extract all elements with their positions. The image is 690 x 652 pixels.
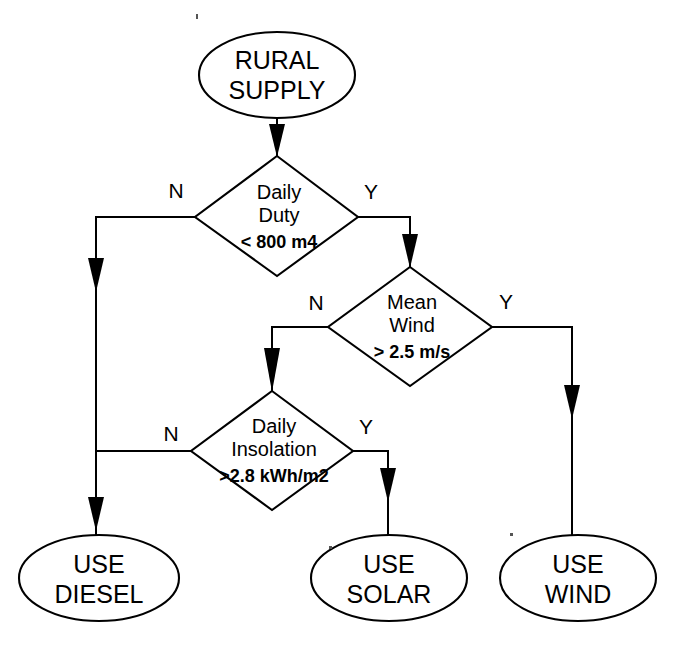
node-label-line1: Daily (252, 415, 296, 437)
scan-speck (510, 533, 513, 536)
arrowhead-icon (264, 348, 280, 392)
edge-wind-no-to-insolation (264, 327, 328, 392)
edge-wind-yes-to-use-wind (492, 327, 580, 545)
node-use-diesel[interactable]: USE DIESEL (19, 535, 179, 621)
node-label-line1: Mean (387, 291, 437, 313)
edge-start-to-duty (269, 117, 285, 157)
node-label-line1: Daily (257, 181, 301, 203)
edge-line (358, 217, 410, 267)
node-label-line2: Wind (389, 314, 435, 336)
node-label-line2: Insolation (231, 438, 317, 460)
node-label-line2: SOLAR (347, 580, 432, 608)
scan-speck (196, 14, 198, 19)
node-daily-duty[interactable]: Daily Duty < 800 m4 (195, 156, 358, 276)
edge-line (353, 451, 388, 545)
node-label-line2: Duty (258, 204, 299, 226)
edge-duty-yes-to-wind (358, 217, 418, 268)
arrowhead-icon (564, 385, 580, 419)
node-label-line1: USE (73, 550, 124, 578)
node-label-line1: USE (363, 550, 414, 578)
edge-duty-no-to-diesel (88, 217, 195, 545)
arrowhead-icon (88, 497, 104, 531)
arrowhead-icon (380, 468, 396, 502)
branch-label-insolation-no: N (163, 422, 178, 445)
node-label-line1: USE (552, 550, 603, 578)
node-daily-insolation[interactable]: Daily Insolation >2.8 kWh/m2 (191, 391, 353, 510)
ellipse-shape (311, 535, 467, 621)
node-label-line2: SUPPLY (229, 76, 326, 104)
edge-line (272, 327, 328, 391)
node-use-solar[interactable]: USE SOLAR (311, 535, 467, 621)
arrowhead-icon (402, 234, 418, 268)
branch-label-wind-yes: Y (499, 290, 513, 313)
edge-line (492, 327, 572, 545)
branch-label-wind-no: N (308, 291, 323, 314)
node-condition: > 2.5 m/s (374, 342, 451, 362)
node-rural-supply[interactable]: RURAL SUPPLY (199, 32, 355, 118)
branch-label-duty-yes: Y (364, 180, 378, 203)
node-mean-wind[interactable]: Mean Wind > 2.5 m/s (328, 267, 492, 386)
edge-line (96, 217, 195, 545)
flowchart-canvas: RURAL SUPPLY Daily Duty < 800 m4 Mean Wi… (0, 0, 690, 652)
node-condition: >2.8 kWh/m2 (219, 466, 329, 486)
node-label-line2: WIND (545, 580, 612, 608)
ellipse-shape (500, 535, 656, 621)
arrowhead-icon (88, 258, 104, 292)
branch-label-insolation-yes: Y (359, 415, 373, 438)
ellipse-shape (19, 535, 179, 621)
edge-insolation-yes-to-solar (353, 451, 396, 545)
arrowhead-icon (269, 124, 285, 157)
node-label-line1: RURAL (235, 46, 320, 74)
scan-speck (329, 546, 332, 549)
node-use-wind[interactable]: USE WIND (500, 535, 656, 621)
flowchart-diagram: RURAL SUPPLY Daily Duty < 800 m4 Mean Wi… (0, 0, 690, 652)
node-label-line2: DIESEL (55, 580, 144, 608)
branch-label-duty-no: N (168, 179, 183, 202)
node-condition: < 800 m4 (241, 232, 318, 252)
